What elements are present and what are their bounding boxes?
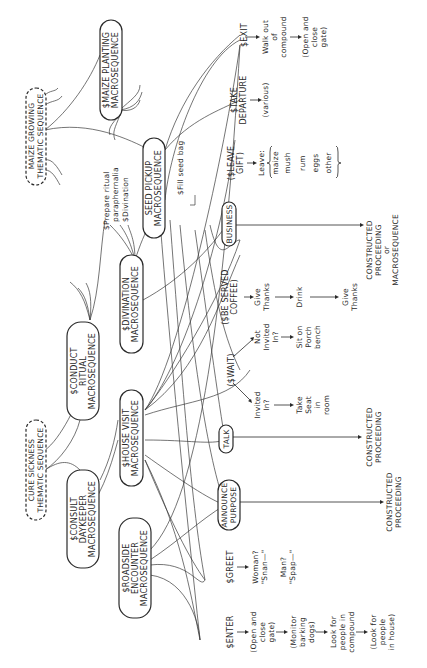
svg-text:Thanks: Thanks — [350, 283, 359, 312]
svg-text:"Snan—": "Snan—" — [260, 550, 269, 585]
svg-text:compound: compound — [279, 16, 288, 57]
svg-text:bench: bench — [313, 325, 322, 349]
label: MAIZE GROWING — [27, 103, 36, 170]
svg-text:(Open and: (Open and — [249, 611, 258, 652]
scene-business[interactable]: BUSINESS CONSTRUCTED PROCEEDING or MACRO… — [222, 202, 400, 286]
svg-text:$Prepare ritual: $Prepare ritual — [102, 171, 111, 230]
svg-text:In?: In? — [271, 331, 280, 343]
node-conduct-ritual[interactable]: $CONDUCT RITUAL MACROSEQUENCE — [67, 322, 99, 420]
svg-text:Woman?: Woman? — [251, 550, 260, 583]
svg-text:CONSTRUCTED: CONSTRUCTED — [365, 220, 374, 279]
svg-text:barking: barking — [298, 617, 307, 647]
svg-text:mush: mush — [283, 152, 292, 174]
svg-text:Look for: Look for — [329, 615, 338, 648]
sequence-diagram: MAIZE GROWING THEMATIC SEQUENCE CURE SIC… — [0, 0, 427, 668]
scene-enter[interactable]: $ENTER (Open and close gate) (Monitor ba… — [226, 611, 396, 652]
svg-text:Drink: Drink — [295, 286, 304, 307]
label: $DIVINATION — [122, 277, 131, 331]
node-house-visit[interactable]: $HOUSE VISIT MACROSEQUENCE — [120, 390, 143, 486]
scene-wait[interactable]: ($WAIT) Not Invited In? Sit on Porch ben… — [227, 323, 331, 418]
node-consult-daykeeper[interactable]: $CONSULT DAYKEEPER MACROSEQUENCE — [67, 470, 99, 568]
svg-text:Sit on: Sit on — [295, 326, 304, 349]
svg-text:PURPOSE: PURPOSE — [229, 487, 238, 524]
label: SEED PICKUP — [145, 161, 154, 216]
svg-text:BUSINESS: BUSINESS — [225, 204, 234, 243]
svg-text:$GREET: $GREET — [226, 550, 235, 583]
svg-text:MACROSEQUENCE: MACROSEQUENCE — [391, 214, 400, 286]
svg-text:rum: rum — [298, 155, 307, 171]
svg-text:dogs): dogs) — [307, 621, 316, 643]
label: THEMATIC SEQUENCE — [36, 93, 45, 179]
label: MACROSEQUENCE — [131, 400, 140, 476]
label: MACROSEQUENCE — [88, 481, 97, 557]
svg-text:in house): in house) — [387, 614, 396, 651]
label: MACROSEQUENCE — [131, 266, 140, 342]
label: $CONDUCT — [70, 347, 79, 394]
node-maize-planting[interactable]: $MAIZE PLANTING MACROSEQUENCE — [100, 20, 122, 120]
svg-text:Take: Take — [295, 396, 304, 415]
annotation-fill-seed-bag: $Fill seed bag — [176, 141, 185, 195]
label: MACROSEQUENCE — [111, 32, 120, 108]
svg-text:other: other — [324, 152, 333, 174]
node-roadside-encounter[interactable]: $ROADSIDE ENCOUNTER MACROSEQUENCE — [119, 518, 151, 618]
node-seed-pickup[interactable]: SEED PICKUP MACROSEQUENCE — [143, 138, 165, 238]
svg-text:people: people — [378, 619, 387, 646]
svg-text:($WAIT): ($WAIT) — [227, 354, 236, 387]
label: MACROSEQUENCE — [154, 150, 163, 226]
svg-text:Not: Not — [253, 330, 262, 344]
svg-text:($BE SERVED: ($BE SERVED — [221, 269, 230, 324]
svg-text:($LEAVE: ($LEAVE — [227, 146, 236, 181]
label: RITUAL — [79, 356, 88, 386]
label: MACROSEQUENCE — [88, 333, 97, 409]
svg-text:Invited: Invited — [262, 323, 271, 350]
scene-exit[interactable]: $EXIT Walk out of compound (Open and clo… — [240, 16, 328, 57]
svg-text:Thanks: Thanks — [262, 283, 271, 312]
svg-text:gate): gate) — [267, 622, 276, 643]
label: DAYKEEPER — [79, 495, 88, 544]
svg-text:maize: maize — [271, 151, 280, 175]
node-divination[interactable]: $DIVINATION MACROSEQUENCE — [120, 255, 143, 353]
label: THEMATIC SEQUENCE — [36, 427, 45, 513]
svg-text:$ENTER: $ENTER — [226, 615, 235, 648]
svg-text:(Look for: (Look for — [369, 614, 378, 650]
thematic-cure-sickness[interactable]: CURE SICKNESS THEMATIC SEQUENCE — [26, 420, 46, 520]
scene-greet[interactable]: $GREET Woman? "Snan—" Man? "Spap—" — [226, 550, 297, 585]
svg-text:PROCEEDING: PROCEEDING — [374, 411, 383, 463]
svg-text:(Monitor: (Monitor — [289, 615, 298, 649]
annotation-prepare-ritual: $Prepare ritual paraphernalia — [102, 167, 120, 230]
label: $ROADSIDE — [122, 544, 131, 593]
svg-text:$Divination: $Divination — [121, 177, 130, 222]
svg-text:people in: people in — [338, 614, 347, 650]
svg-text:In?: In? — [262, 399, 271, 411]
svg-text:$TAKE: $TAKE — [230, 87, 239, 113]
svg-text:paraphernalia: paraphernalia — [111, 167, 120, 222]
svg-text:ANNOUNCE: ANNOUNCE — [220, 482, 229, 527]
scene-leave-gift[interactable]: ($LEAVE GIFT) Leave: maize mush rum eggs… — [227, 146, 341, 181]
svg-text:Walk out: Walk out — [261, 20, 270, 54]
scene-announce-purpose[interactable]: ANNOUNCE PURPOSE CONSTRUCTED PROCEEDING — [218, 472, 403, 531]
scene-be-served-coffee[interactable]: ($BE SERVED COFFEE) Give Thanks Drink Gi… — [221, 269, 359, 324]
label: $HOUSE VISIT — [122, 409, 131, 468]
svg-text:close: close — [258, 622, 267, 643]
svg-text:$Fill seed bag: $Fill seed bag — [176, 141, 185, 195]
svg-text:PROCEEDING: PROCEEDING — [394, 476, 403, 528]
svg-text:eggs: eggs — [311, 154, 320, 173]
svg-text:Porch: Porch — [304, 326, 313, 348]
svg-text:CONSTRUCTED: CONSTRUCTED — [365, 407, 374, 466]
svg-text:room: room — [322, 395, 331, 415]
svg-text:Give: Give — [253, 288, 262, 306]
svg-text:or: or — [382, 245, 391, 254]
scene-talk[interactable]: TALK CONSTRUCTED PROCEEDING — [219, 407, 383, 466]
svg-text:COFFEE): COFFEE) — [230, 279, 239, 315]
svg-text:(various): (various) — [261, 82, 270, 117]
scene-take-departure[interactable]: $TAKE DEPARTURE (various) — [230, 75, 270, 124]
svg-text:TALK: TALK — [222, 429, 231, 450]
label: ENCOUNTER — [131, 542, 140, 594]
svg-text:$EXIT: $EXIT — [240, 23, 249, 47]
label: $MAIZE PLANTING — [102, 32, 111, 108]
svg-text:"Spap—": "Spap—" — [288, 550, 297, 585]
svg-text:in: in — [313, 401, 322, 408]
thematic-maize-growing[interactable]: MAIZE GROWING THEMATIC SEQUENCE — [26, 88, 46, 185]
svg-text:Man?: Man? — [279, 557, 288, 578]
svg-text:Leave:: Leave: — [257, 150, 266, 176]
